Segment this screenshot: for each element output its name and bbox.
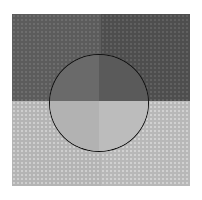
circle-top-left-region	[50, 55, 99, 101]
circle-top-right-region	[99, 55, 148, 101]
center-circle	[49, 54, 149, 152]
circle-bottom-left-region	[50, 101, 99, 151]
illusion-figure	[12, 14, 190, 186]
circle-bottom-right-region	[99, 101, 148, 151]
